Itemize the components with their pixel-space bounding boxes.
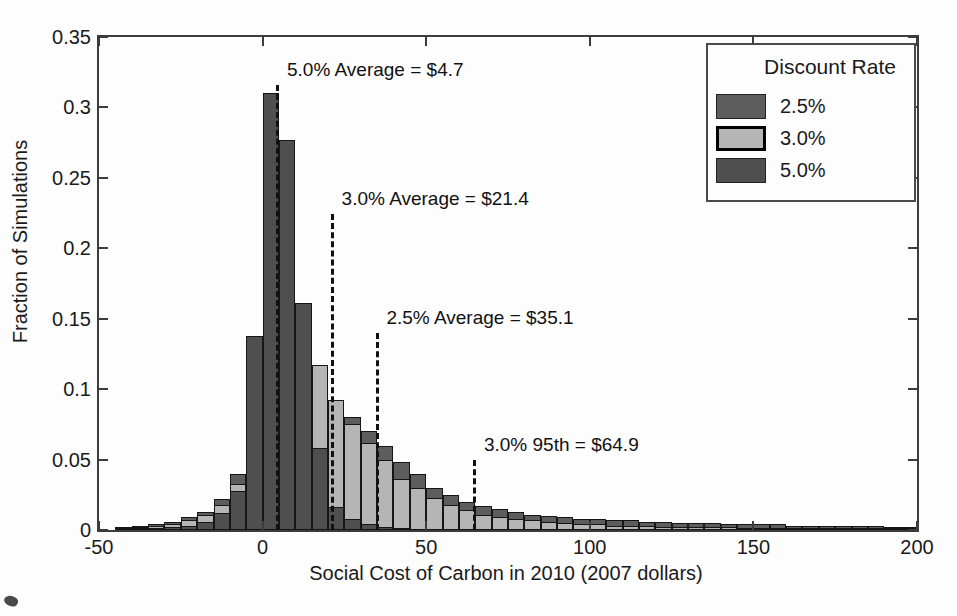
legend-title: Discount Rate [716,51,914,87]
annotation-line [473,460,476,530]
histogram-bar-5.0% [377,527,393,530]
x-tick-mark [98,521,100,530]
legend: Discount Rate 2.5%3.0%5.0% [706,43,916,202]
y-tick-mark [908,318,917,320]
y-tick-mark [99,247,108,249]
histogram-bar-3.0% [868,528,884,530]
histogram-bar-5.0% [361,524,377,530]
histogram-bar-3.0% [115,528,131,530]
x-tick-mark [425,521,427,530]
x-tick-mark [262,37,264,46]
x-tick-mark [589,37,591,46]
histogram-bar-3.0% [852,528,868,530]
histogram-bar-3.0% [361,443,377,530]
y-tick-label: 0.1 [63,378,99,401]
y-tick-mark [99,388,108,390]
x-tick-mark [425,37,427,46]
histogram-bar-5.0% [279,140,295,530]
annotation-line [276,85,279,530]
y-tick-mark [99,106,108,108]
legend-label: 3.0% [780,127,826,150]
histogram-bar-3.0% [623,526,639,530]
histogram-bar-5.0% [132,528,148,530]
histogram-bar-3.0% [475,515,491,530]
legend-row: 2.5% [716,94,914,119]
histogram-bar-3.0% [672,527,688,530]
y-tick-mark [99,36,108,38]
histogram-bar-5.0% [393,528,409,530]
annotation-text: 3.0% 95th = $64.9 [484,434,639,456]
x-tick-label: 50 [415,530,437,559]
histogram-bar-3.0% [377,460,393,530]
histogram-bar-3.0% [508,519,524,530]
annotation-text: 2.5% Average = $35.1 [386,307,573,329]
x-tick-mark [589,521,591,530]
histogram-bar-3.0% [704,527,720,530]
histogram-bar-3.0% [721,527,737,530]
histogram-bar-3.0% [786,528,802,530]
histogram-bar-3.0% [492,517,508,530]
histogram-bar-5.0% [344,519,360,530]
histogram-bar-5.0% [214,513,230,530]
x-tick-label: 200 [900,530,933,559]
histogram-bar-3.0% [524,520,540,530]
histogram-bar-3.0% [426,498,442,530]
y-tick-label: 0.3 [63,96,99,119]
annotation-text: 3.0% Average = $21.4 [342,188,529,210]
histogram-bar-5.0% [312,448,328,530]
histogram-bar-5.0% [246,336,262,530]
x-tick-label: 100 [573,530,606,559]
legend-row: 3.0% [716,126,914,151]
histogram-bar-3.0% [819,528,835,530]
histogram-bar-5.0% [148,528,164,530]
y-tick-label: 0.35 [52,26,99,49]
x-axis-title: Social Cost of Carbon in 2010 (2007 doll… [97,562,915,585]
plot-area: 00.050.10.150.20.250.30.35-5005010015020… [97,35,919,532]
y-tick-label: 0.15 [52,307,99,330]
x-tick-label: 0 [257,530,268,559]
histogram-bar-5.0% [230,491,246,530]
scc-histogram-figure: Fraction of Simulations 00.050.10.150.20… [0,0,957,616]
histogram-bar-3.0% [835,528,851,530]
scan-artifact-mark [3,594,20,609]
histogram-bar-3.0% [802,528,818,530]
annotation-text: 5.0% Average = $4.7 [287,59,464,81]
histogram-bar-3.0% [393,479,409,530]
legend-rows: 2.5%3.0%5.0% [716,94,914,183]
y-tick-label: 0.05 [52,448,99,471]
x-tick-mark [752,521,754,530]
legend-swatch-2.5% [716,94,766,119]
legend-row: 5.0% [716,158,914,183]
histogram-bar-3.0% [688,527,704,530]
x-tick-mark [262,521,264,530]
histogram-bar-5.0% [197,522,213,530]
histogram-bar-5.0% [164,527,180,530]
y-tick-mark [99,177,108,179]
histogram-bar-5.0% [181,526,197,530]
histogram-bar-3.0% [541,522,557,530]
y-tick-mark [908,388,917,390]
x-tick-mark [98,37,100,46]
annotation-line [331,214,334,530]
annotation-line [376,333,379,530]
histogram-bar-3.0% [557,523,573,530]
x-tick-label: 150 [737,530,770,559]
legend-label: 5.0% [780,159,826,182]
x-tick-label: -50 [85,530,114,559]
y-tick-label: 0.25 [52,166,99,189]
histogram-bar-5.0% [295,303,311,530]
histogram-bar-3.0% [770,528,786,530]
histogram-bar-3.0% [606,526,622,530]
histogram-bar-3.0% [639,526,655,530]
y-tick-mark [908,459,917,461]
y-tick-mark [99,459,108,461]
histogram-bar-3.0% [344,424,360,530]
histogram-bar-3.0% [443,505,459,530]
histogram-bar-3.0% [884,528,900,530]
y-tick-label: 0.2 [63,237,99,260]
x-tick-mark [916,37,918,46]
histogram-bar-3.0% [410,488,426,530]
y-tick-mark [99,318,108,320]
histogram-bar-3.0% [655,527,671,530]
legend-label: 2.5% [780,95,826,118]
